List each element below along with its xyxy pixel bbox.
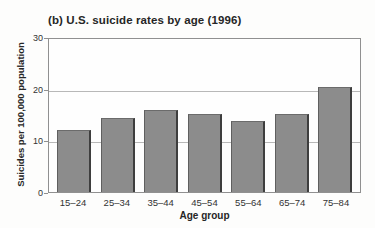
bar-55-64 bbox=[231, 121, 265, 192]
x-tick-label-25-34: 25–34 bbox=[96, 197, 138, 208]
y-tick-label-0: 0 bbox=[21, 188, 43, 198]
x-tick-label-65-74: 65–74 bbox=[271, 197, 313, 208]
bar-35-44 bbox=[144, 110, 178, 192]
x-axis-ticks: 15–2425–3435–4445–5455–6465–7475–84 bbox=[48, 197, 361, 208]
x-tick-label-35-44: 35–44 bbox=[140, 197, 182, 208]
plot-area bbox=[48, 38, 361, 193]
x-axis-label: Age group bbox=[48, 210, 361, 221]
bar-15-24 bbox=[57, 130, 91, 192]
y-tick-mark-30 bbox=[44, 38, 48, 39]
x-tick-label-75-84: 75–84 bbox=[315, 197, 357, 208]
x-tick-label-45-54: 45–54 bbox=[183, 197, 225, 208]
suicide-rates-figure: (b) U.S. suicide rates by age (1996) Sui… bbox=[0, 0, 375, 228]
y-tick-mark-0 bbox=[44, 193, 48, 194]
y-tick-mark-20 bbox=[44, 90, 48, 91]
y-tick-mark-10 bbox=[44, 141, 48, 142]
y-axis-label: Suicides per 100,000 population bbox=[15, 35, 26, 195]
x-tick-label-55-64: 55–64 bbox=[227, 197, 269, 208]
bar-25-34 bbox=[101, 118, 135, 192]
y-tick-label-20: 20 bbox=[21, 85, 43, 95]
chart-title: (b) U.S. suicide rates by age (1996) bbox=[48, 14, 241, 26]
bar-45-54 bbox=[188, 114, 222, 192]
bar-65-74 bbox=[275, 114, 309, 192]
y-tick-label-10: 10 bbox=[21, 136, 43, 146]
bar-75-84 bbox=[318, 87, 352, 192]
bars-layer bbox=[49, 39, 360, 192]
y-tick-label-30: 30 bbox=[21, 33, 43, 43]
x-tick-label-15-24: 15–24 bbox=[52, 197, 94, 208]
